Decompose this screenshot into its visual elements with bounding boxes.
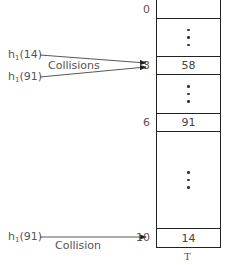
- vertical-ellipsis-icon: [187, 85, 190, 103]
- index-3: 3: [130, 59, 150, 72]
- table-slot-ellipsis-1: [156, 18, 221, 57]
- collisions-label: Collisions: [48, 59, 100, 72]
- index-0: 0: [130, 3, 150, 16]
- table-slot-0: [156, 0, 221, 19]
- table-slot-ellipsis-2: [156, 74, 221, 114]
- vertical-ellipsis-icon: [187, 171, 190, 189]
- label-h1-91: h1(91): [8, 70, 42, 84]
- table-slot-3: 58: [156, 56, 221, 75]
- table-slot-10: 14: [156, 228, 221, 248]
- label-h1-14: h1(14): [8, 48, 42, 62]
- index-10: 10: [130, 231, 150, 244]
- index-6: 6: [130, 116, 150, 129]
- label-h1-91-bottom: h1(91): [8, 230, 42, 244]
- collision-label: Collision: [55, 239, 101, 252]
- table-slot-ellipsis-3: [156, 131, 221, 229]
- table-slot-6: 91: [156, 113, 221, 132]
- vertical-ellipsis-icon: [187, 29, 190, 47]
- table-name: T: [184, 251, 191, 262]
